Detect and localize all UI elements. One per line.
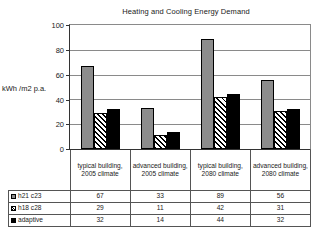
- plot-area: 100 80 60 40 20 0: [69, 24, 311, 150]
- cell-h21c23-advanced2005: 33: [130, 191, 190, 203]
- cell-adaptive-typical2005: 32: [70, 215, 130, 227]
- cell-h21c23-typical2005: 67: [70, 191, 130, 203]
- cell-h18c28-advanced2005: 11: [130, 203, 190, 215]
- bar-h18-c28-typical-building-2080-climate: [214, 97, 227, 149]
- y-tick-60: 60: [56, 66, 70, 84]
- cell-adaptive-typical2080: 44: [190, 215, 250, 227]
- bar-group-typical-building-2080-climate: [190, 25, 250, 149]
- legend-row-h18-c28: h18 c28: [9, 203, 71, 215]
- y-tick-80: 80: [56, 41, 70, 59]
- bar-h18-c28-advanced-building-2080-climate: [274, 111, 287, 149]
- table-corner-cell: [9, 150, 71, 191]
- bar-h18-c28-typical-building-2005-climate: [94, 113, 107, 149]
- y-tick-100: 100: [51, 16, 70, 34]
- legend-label: h18 c28: [18, 204, 41, 212]
- cell-h18c28-typical2005: 29: [70, 203, 130, 215]
- bar-h21-c23-advanced-building-2005-climate: [141, 108, 154, 149]
- chart-figure: Heating and Cooling Energy Demand kWh /m…: [0, 0, 319, 236]
- column-header-advanced-2005: advanced building, 2005 climate: [130, 150, 190, 191]
- cell-adaptive-advanced2005: 14: [130, 215, 190, 227]
- bar-h21-c23-typical-building-2005-climate: [81, 66, 94, 149]
- legend-row-adaptive: adaptive: [9, 215, 71, 227]
- y-tick-40: 40: [56, 90, 70, 108]
- cell-h21c23-typical2080: 89: [190, 191, 250, 203]
- legend-swatch-hatch-icon: [11, 206, 16, 211]
- bar-adaptive-advanced-building-2005-climate: [167, 132, 180, 149]
- bar-adaptive-advanced-building-2080-climate: [287, 109, 300, 149]
- cell-h18c28-advanced2080: 31: [250, 203, 310, 215]
- cell-adaptive-advanced2080: 32: [250, 215, 310, 227]
- cell-h21c23-advanced2080: 56: [250, 191, 310, 203]
- y-tick-20: 20: [56, 115, 70, 133]
- column-header-typical-2080: typical building, 2080 climate: [190, 150, 250, 191]
- table-row: h21 c23 67 33 89 56: [9, 191, 311, 203]
- bar-h21-c23-advanced-building-2080-climate: [261, 80, 274, 149]
- bar-group-advanced-building-2080-climate: [250, 25, 310, 149]
- table-row: h18 c28 29 11 42 31: [9, 203, 311, 215]
- table-row: adaptive 32 14 44 32: [9, 215, 311, 227]
- legend-label: h21 c23: [18, 192, 41, 200]
- bar-series-layer: [70, 25, 310, 149]
- column-header-advanced-2080: advanced building, 2080 climate: [250, 150, 310, 191]
- legend-swatch-black-icon: [11, 218, 16, 223]
- chart-title: Heating and Cooling Energy Demand: [60, 7, 312, 16]
- legend-row-h21-c23: h21 c23: [9, 191, 71, 203]
- bar-group-typical-building-2005-climate: [70, 25, 130, 149]
- bar-adaptive-typical-building-2005-climate: [107, 109, 120, 149]
- legend-label: adaptive: [18, 216, 43, 224]
- legend-swatch-gray-icon: [11, 194, 16, 199]
- data-table: typical building, 2005 climate advanced …: [8, 150, 311, 227]
- bar-adaptive-typical-building-2080-climate: [227, 94, 240, 149]
- bar-group-advanced-building-2005-climate: [130, 25, 190, 149]
- bar-h18-c28-advanced-building-2005-climate: [154, 135, 167, 149]
- bar-h21-c23-typical-building-2080-climate: [201, 39, 214, 149]
- table-header-row: typical building, 2005 climate advanced …: [9, 150, 311, 191]
- column-header-typical-2005: typical building, 2005 climate: [70, 150, 130, 191]
- cell-h18c28-typical2080: 42: [190, 203, 250, 215]
